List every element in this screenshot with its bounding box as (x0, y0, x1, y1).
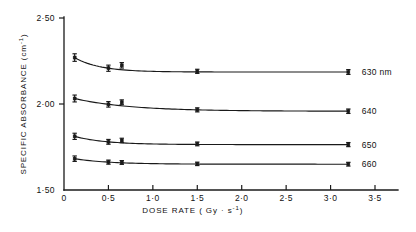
data-point (346, 109, 350, 113)
series-labels-group: 630 nm640650660 (362, 67, 392, 169)
data-point (72, 133, 76, 139)
data-marker (196, 142, 199, 145)
series-label-660: 660 (362, 159, 377, 169)
curve-660 (75, 159, 349, 165)
data-marker (347, 163, 350, 166)
absorbance-vs-dose-rate-chart: 1·502·002·5000·51·01·52·02·53·03·5 630 n… (0, 0, 416, 232)
data-marker (347, 71, 350, 74)
data-point (72, 95, 76, 102)
x-tick-label: 3·0 (324, 193, 338, 203)
tick-labels-group: 1·502·002·5000·51·01·52·02·53·03·5 (36, 13, 381, 203)
data-point (106, 102, 110, 108)
data-point (346, 70, 350, 75)
y-tick-label: 2·50 (36, 13, 55, 23)
data-point (120, 100, 124, 105)
data-point (106, 160, 110, 164)
curve-650 (75, 136, 349, 144)
data-point (195, 142, 199, 146)
data-marker (107, 67, 110, 70)
y-tick-label: 1·50 (36, 185, 55, 195)
x-tick-label: 1·5 (191, 193, 205, 203)
data-marker (120, 101, 123, 104)
data-point (120, 161, 124, 165)
x-tick-label: 2·5 (279, 193, 293, 203)
data-marker (120, 139, 123, 142)
data-point (195, 108, 199, 112)
data-marker (107, 140, 110, 143)
data-point (346, 143, 350, 147)
data-marker (196, 70, 199, 73)
data-point (106, 139, 110, 144)
data-marker (107, 103, 110, 106)
data-point (120, 63, 124, 69)
y-tick-label: 2·00 (36, 99, 55, 109)
data-marker (347, 143, 350, 146)
data-marker (107, 161, 110, 164)
data-point (195, 69, 199, 73)
data-point (120, 138, 124, 142)
x-tick-label: 2·0 (235, 193, 249, 203)
data-marker (73, 135, 76, 138)
data-marker (196, 162, 199, 165)
series-label-650: 650 (362, 140, 377, 150)
data-point (72, 156, 76, 162)
data-marker (347, 110, 350, 113)
x-tick-label: 3·5 (368, 193, 382, 203)
y-axis-title: SPECIFIC ABSORBANCE (cm-1) (18, 33, 28, 174)
curves-group (75, 58, 349, 165)
x-axis-title: DOSE RATE ( Gy · s-1) (142, 205, 243, 215)
data-point (106, 65, 110, 71)
curve-640 (75, 99, 349, 112)
data-point (346, 162, 350, 166)
data-marker (120, 64, 123, 67)
data-marker (73, 56, 76, 59)
data-point (72, 54, 76, 62)
data-point (195, 162, 199, 165)
data-marker (73, 97, 76, 100)
x-tick-label: 0·5 (102, 193, 116, 203)
series-label-640: 640 (362, 106, 377, 116)
data-marker (73, 157, 76, 160)
series-label-630-nm: 630 nm (362, 67, 392, 77)
x-tick-label: 1·0 (146, 193, 160, 203)
figure-container: 1·502·002·5000·51·01·52·02·53·03·5 630 n… (0, 0, 416, 232)
data-marker (120, 161, 123, 164)
x-tick-label: 0 (61, 193, 66, 203)
data-marker (196, 108, 199, 111)
curve-630-nm (75, 58, 349, 72)
